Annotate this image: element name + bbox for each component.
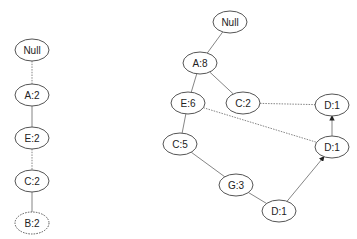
right-node-r-null: Null [213,11,247,33]
right-edge-r-c5-to-r-g [191,152,224,177]
right-node-r-c5: C:5 [163,133,197,155]
edges-layer [32,32,332,212]
node-label: C:5 [172,139,188,150]
right-node-r-c2: C:2 [226,92,260,114]
right-node-r-d1-bot: D:1 [262,200,296,222]
node-label: E:2 [24,133,39,144]
right-edge-r-a-to-r-e [191,74,197,92]
node-label: A:8 [192,58,207,69]
node-label: D:1 [271,206,287,217]
node-label: D:1 [324,142,340,153]
node-label: Null [23,45,40,56]
node-label: C:2 [24,176,40,187]
node-label: A:2 [24,90,39,101]
right-edge-r-e-to-r-d1-mid [203,108,316,143]
node-label: G:3 [228,180,245,191]
left-node-l-c: C:2 [15,170,49,192]
right-edge-r-e-to-r-c5 [182,114,186,133]
fp-tree-diagram: NullA:2E:2C:2B:2NullA:8E:6C:2D:1C:5D:1G:… [0,0,357,239]
right-edge-r-c2-to-r-d1-top [260,103,315,104]
node-label: E:6 [180,98,195,109]
node-label: Null [221,17,238,28]
right-edge-r-a-to-r-c2 [210,72,234,94]
node-label: C:2 [235,98,251,109]
nodes-layer: NullA:2E:2C:2B:2NullA:8E:6C:2D:1C:5D:1G:… [15,11,349,234]
right-node-r-d1-mid: D:1 [315,136,349,158]
right-node-r-a: A:8 [183,52,217,74]
right-node-r-e: E:6 [171,92,205,114]
right-edge-r-null-to-r-a [207,32,222,53]
right-edge-r-d1-bot-to-r-d1-mid [287,157,324,202]
right-edge-r-g-to-r-d1-bot [248,193,266,204]
right-node-r-d1-top: D:1 [315,94,349,116]
left-node-l-e: E:2 [15,127,49,149]
right-node-r-g: G:3 [219,174,253,196]
node-label: D:1 [324,100,340,111]
left-node-l-a: A:2 [15,84,49,106]
left-node-l-b: B:2 [15,212,49,234]
node-label: B:2 [24,218,39,229]
left-node-l-null: Null [15,39,49,61]
